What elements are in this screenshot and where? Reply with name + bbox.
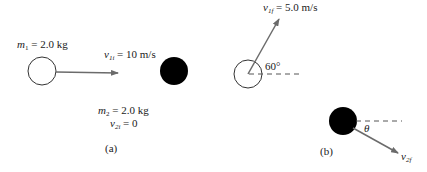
velocity-v1i-arrow [56,72,118,73]
v2f-label: v2f [401,150,412,164]
ball-2-icon [160,57,188,85]
caption-a: (a) [105,142,118,155]
m1-label: m1 = 2.0 kg [17,38,68,52]
ball-1-icon [28,57,56,85]
m2-label: m2 = 2.0 kg [98,104,149,118]
panel-b: 60° v1f = 5.0 m/s θ v2f (b) [234,1,412,164]
v1i-label: v1i = 10 m/s [104,48,156,62]
ball-2-after-icon [329,107,357,135]
theta-label: θ [364,122,370,134]
caption-b: (b) [320,145,333,158]
angle-60-label: 60° [265,60,280,72]
velocity-v2f-arrow [353,128,398,153]
collision-diagram: m1 = 2.0 kg v1i = 10 m/s m2 = 2.0 kg v2i… [0,0,427,172]
panel-a: m1 = 2.0 kg v1i = 10 m/s m2 = 2.0 kg v2i… [17,38,188,155]
v1f-label: v1f = 5.0 m/s [263,1,317,15]
v2i-label: v2i = 0 [110,117,138,131]
